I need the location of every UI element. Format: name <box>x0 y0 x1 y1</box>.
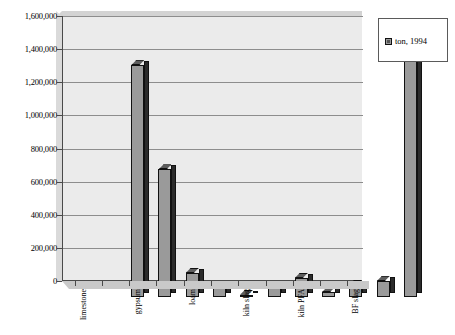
bar <box>377 276 390 297</box>
x-axis-tick-mark <box>320 281 321 286</box>
y-axis-tick-label: 600,000 <box>31 177 57 187</box>
bar <box>404 45 417 297</box>
y-axis-tick-label: 800,000 <box>31 144 57 154</box>
y-axis-tick-mark <box>57 115 62 116</box>
y-axis-tick-label: 200,000 <box>31 243 57 253</box>
x-axis-tick-mark <box>184 281 185 286</box>
y-axis-tick-label: 1,600,000 <box>25 11 57 21</box>
x-axis-tick-mark <box>266 281 267 286</box>
x-axis-tick-label: limestone <box>79 289 88 320</box>
x-axis-tick-mark <box>156 281 157 286</box>
bar-face <box>377 281 390 297</box>
x-axis-tick-label: gypsum <box>133 289 142 314</box>
x-axis-tick-label: kiln PFA <box>297 289 306 318</box>
y-axis-tick-label: 1,400,000 <box>25 44 57 54</box>
bar-side <box>417 46 422 293</box>
x-axis-tick-mark <box>347 281 348 286</box>
x-axis-tick-mark <box>75 281 76 286</box>
legend-item-ton-1994: ton, 1994 <box>385 36 427 46</box>
legend: ton, 1994 <box>378 18 448 62</box>
x-axis-tick-label: loam <box>188 289 197 305</box>
legend-item-label: ton, 1994 <box>395 36 427 46</box>
y-axis-tick-label: 1,000,000 <box>25 110 57 120</box>
y-axis-tick-label: 400,000 <box>31 210 57 220</box>
bar-face <box>404 50 417 297</box>
bar-face <box>131 65 144 297</box>
bar <box>158 164 171 297</box>
bar-face <box>158 169 171 297</box>
gridline <box>63 16 363 17</box>
y-axis-tick-mark <box>57 215 62 216</box>
bar-side <box>144 61 149 293</box>
x-axis: limestonegypsumloamkiln slagkiln PFABF s… <box>62 281 369 335</box>
bar-series-ton-1994 <box>125 32 425 297</box>
x-axis-tick-label: kiln slag <box>242 289 251 316</box>
x-axis-tick-mark <box>238 281 239 286</box>
bar-side <box>390 277 395 293</box>
x-axis-tick-mark <box>211 281 212 286</box>
y-axis-tick-mark <box>57 49 62 50</box>
y-axis: 0200,000400,000600,000800,0001,000,0001,… <box>0 16 57 282</box>
bar-side <box>171 165 176 293</box>
x-axis-tick-mark <box>129 281 130 286</box>
y-axis-tick-mark <box>57 149 62 150</box>
y-axis-tick-mark <box>57 82 62 83</box>
y-axis-tick-mark <box>57 248 62 249</box>
bar <box>131 60 144 297</box>
plot-area <box>62 16 362 281</box>
y-axis-tick-mark <box>57 182 62 183</box>
chart-container: 0200,000400,000600,000800,0001,000,0001,… <box>0 0 455 335</box>
x-axis-tick-mark <box>293 281 294 286</box>
square-swatch-icon <box>385 38 392 45</box>
x-axis-tick-mark <box>102 281 103 286</box>
x-axis-tick-label: BF slag <box>351 289 360 314</box>
y-axis-tick-mark <box>57 16 62 17</box>
y-axis-tick-label: 1,200,000 <box>25 77 57 87</box>
